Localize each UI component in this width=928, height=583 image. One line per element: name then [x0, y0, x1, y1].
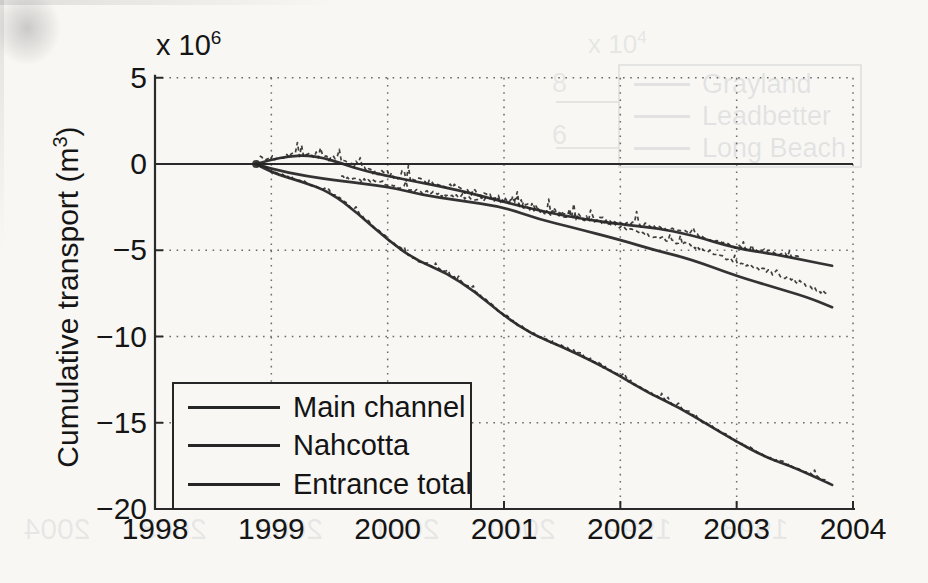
legend-row: Entrance total	[174, 468, 470, 501]
series-line-main-channel	[256, 156, 832, 266]
series-line-nahcotta	[256, 164, 832, 307]
scanned-figure-page: x 10486GraylandLeadbetterLong Beach19981…	[0, 0, 928, 583]
series-start-point	[252, 160, 260, 168]
legend-label: Main channel	[293, 391, 466, 424]
legend-line-sample	[188, 406, 280, 409]
legend-line-sample	[188, 444, 280, 447]
legend-row: Main channel	[174, 391, 470, 424]
legend-line-sample	[188, 483, 280, 486]
legend-row: Nahcotta	[174, 429, 470, 462]
legend-label: Nahcotta	[293, 429, 409, 462]
legend-label: Entrance total	[293, 468, 472, 501]
legend-box: Main channelNahcottaEntrance total	[172, 382, 472, 510]
